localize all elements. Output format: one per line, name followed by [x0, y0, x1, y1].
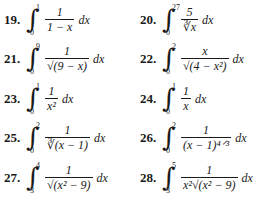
differential: dx [195, 92, 206, 107]
numerator: 1 [62, 45, 72, 58]
problem-number: 21. [4, 51, 26, 67]
integral-sign-icon: ∫10 [162, 81, 178, 117]
problem-number: 25. [4, 130, 26, 146]
problem-24: 24. ∫10 1x dx [140, 81, 206, 117]
lower-limit: 0 [30, 67, 34, 76]
numerator: x [200, 45, 209, 58]
integral-sign-icon: ∫90 [26, 41, 42, 77]
problem-number: 19. [4, 12, 26, 28]
differential: dx [94, 131, 105, 146]
problem-number: 20. [140, 12, 162, 28]
integrand-fraction: 1∛(x − 1) [45, 124, 90, 152]
denominator: x [181, 98, 190, 113]
upper-limit: 27 [172, 3, 180, 12]
integrand-fraction: 1(x − 1)⁴ᐟ³ [181, 124, 231, 152]
denominator: x² [45, 98, 58, 113]
upper-limit: 5 [172, 161, 176, 170]
problem-28: 28. ∫53 1x²√(x² − 9) dx [140, 160, 253, 196]
differential: dx [242, 171, 253, 186]
denominator: ∛(x − 1) [45, 137, 90, 152]
integral-sign-icon: ∫10 [26, 81, 42, 117]
upper-limit: 1 [36, 3, 40, 12]
problem-20: 20. ∫270 5∛x dx [140, 2, 213, 38]
denominator: ∛x [181, 19, 198, 34]
differential: dx [78, 13, 89, 28]
problem-number: 26. [140, 130, 162, 146]
problem-number: 28. [140, 170, 162, 186]
problem-26: 26. ∫20 1(x − 1)⁴ᐟ³ dx [140, 120, 247, 156]
numerator: 1 [63, 124, 73, 137]
denominator: x²√(x² − 9) [181, 177, 238, 192]
integral-sign-icon: ∫10 [26, 2, 42, 38]
differential: dx [235, 131, 246, 146]
denominator: √(x² − 9) [45, 177, 93, 192]
upper-limit: 2 [172, 121, 176, 130]
numerator: 5 [184, 6, 194, 19]
integrand-fraction: 11 − x [45, 6, 74, 34]
numerator: 1 [201, 124, 211, 137]
problem-number: 27. [4, 170, 26, 186]
integral-sign-icon: ∫20 [162, 41, 178, 77]
problem-22: 22. ∫20 x√(4 − x²) dx [140, 41, 244, 77]
integral-sign-icon: ∫43 [26, 160, 42, 196]
differential: dx [97, 171, 108, 186]
integrand-fraction: 1x² [45, 85, 58, 113]
upper-limit: 2 [36, 121, 40, 130]
problem-23: 23. ∫10 1x² dx [4, 81, 73, 117]
lower-limit: 0 [166, 146, 170, 155]
differential: dx [233, 52, 244, 67]
denominator: √(4 − x²) [181, 58, 229, 73]
lower-limit: 0 [166, 67, 170, 76]
integrand-fraction: 1√(x² − 9) [45, 164, 93, 192]
integrand-fraction: 5∛x [181, 6, 198, 34]
denominator: 1 − x [45, 19, 74, 34]
integral-sign-icon: ∫270 [162, 2, 178, 38]
problem-27: 27. ∫43 1√(x² − 9) dx [4, 160, 108, 196]
lower-limit: 0 [30, 107, 34, 116]
differential: dx [202, 13, 213, 28]
lower-limit: 0 [166, 28, 170, 37]
integral-sign-icon: ∫20 [162, 120, 178, 156]
numerator: 1 [204, 164, 214, 177]
numerator: 1 [181, 85, 191, 98]
upper-limit: 4 [36, 161, 40, 170]
lower-limit: 3 [166, 186, 170, 195]
lower-limit: 3 [30, 186, 34, 195]
upper-limit: 1 [172, 82, 176, 91]
numerator: 1 [55, 6, 65, 19]
problem-21: 21. ∫90 1√(9 − x) dx [4, 41, 104, 77]
upper-limit: 9 [36, 42, 40, 51]
differential: dx [93, 52, 104, 67]
numerator: 1 [64, 164, 74, 177]
integrand-fraction: 1x²√(x² − 9) [181, 164, 238, 192]
lower-limit: 0 [30, 146, 34, 155]
upper-limit: 1 [36, 82, 40, 91]
upper-limit: 2 [172, 42, 176, 51]
integrand-fraction: 1x [181, 85, 191, 113]
problem-number: 22. [140, 51, 162, 67]
denominator: √(9 − x) [45, 58, 89, 73]
integrand-fraction: 1√(9 − x) [45, 45, 89, 73]
problem-number: 24. [140, 91, 162, 107]
lower-limit: 0 [166, 107, 170, 116]
lower-limit: 0 [30, 28, 34, 37]
integrand-fraction: x√(4 − x²) [181, 45, 229, 73]
problem-number: 23. [4, 91, 26, 107]
denominator: (x − 1)⁴ᐟ³ [181, 137, 231, 152]
integral-sign-icon: ∫53 [162, 160, 178, 196]
integral-sign-icon: ∫20 [26, 120, 42, 156]
numerator: 1 [46, 85, 56, 98]
problem-19: 19. ∫10 11 − x dx [4, 2, 90, 38]
problem-25: 25. ∫20 1∛(x − 1) dx [4, 120, 105, 156]
differential: dx [62, 92, 73, 107]
